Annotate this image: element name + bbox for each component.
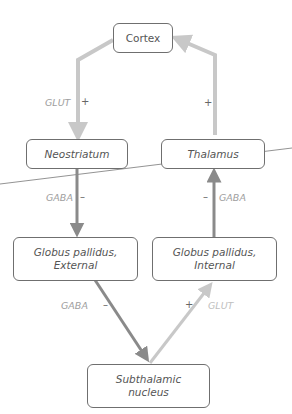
- sign-minus-left: –: [80, 191, 85, 202]
- node-globus-pallidus-external: Globus pallidus, External: [13, 237, 138, 281]
- node-thalamus-label: Thalamus: [187, 148, 238, 161]
- arrow-stn-gpi: [150, 288, 208, 363]
- sign-plus-right: +: [204, 97, 212, 108]
- node-cortex: Cortex: [113, 23, 173, 53]
- node-gpe-label-line1: Globus pallidus,: [34, 246, 118, 259]
- node-stn-label-line2: nucleus: [128, 386, 169, 399]
- node-cortex-label: Cortex: [126, 32, 161, 45]
- connections-layer: [0, 0, 292, 414]
- sign-minus-right: –: [203, 191, 208, 202]
- node-gpi-label-line2: Internal: [194, 259, 235, 272]
- label-gaba-right: GABA: [219, 192, 246, 203]
- label-gaba-bottom: GABA: [61, 300, 88, 311]
- sign-plus-bottom: +: [185, 299, 193, 310]
- label-glut-bottom: GLUT: [208, 300, 233, 311]
- sign-minus-bottom: –: [103, 299, 108, 310]
- node-neostriatum: Neostriatum: [26, 139, 128, 169]
- arrow-cortex-neostriatum: [78, 40, 113, 132]
- node-thalamus: Thalamus: [161, 139, 265, 169]
- arrow-gpe-stn: [95, 280, 145, 356]
- sign-plus-left: +: [81, 96, 89, 107]
- label-gaba-left: GABA: [46, 192, 73, 203]
- label-glut-left: GLUT: [45, 97, 70, 108]
- arrow-thalamus-cortex: [180, 40, 215, 135]
- node-globus-pallidus-internal: Globus pallidus, Internal: [152, 237, 277, 281]
- node-subthalamic-nucleus: Subthalamic nucleus: [87, 364, 210, 408]
- node-gpe-label-line2: External: [54, 259, 98, 272]
- node-stn-label-line1: Subthalamic: [116, 373, 181, 386]
- basal-ganglia-diagram: Cortex Neostriatum Thalamus Globus palli…: [0, 0, 292, 414]
- node-gpi-label-line1: Globus pallidus,: [173, 246, 257, 259]
- node-neostriatum-label: Neostriatum: [45, 148, 110, 161]
